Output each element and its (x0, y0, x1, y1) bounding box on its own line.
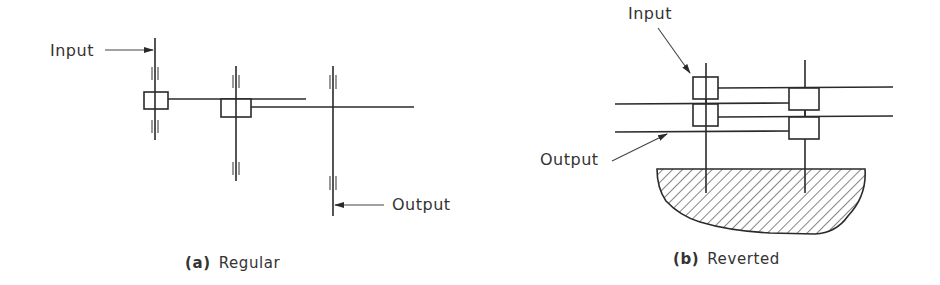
regular-caption-tag: (a) (185, 254, 211, 272)
regular-input-label: Input (50, 41, 94, 60)
reverted-caption-tag: (b) (673, 250, 699, 268)
gear-train-diagram (0, 0, 940, 285)
reverted-output-label: Output (540, 150, 599, 169)
housing (657, 169, 865, 234)
output-line-bottom (615, 131, 789, 132)
regular-gear-train (105, 38, 414, 216)
countershaft-gear-1 (789, 88, 819, 110)
output-arrow-icon (612, 134, 667, 161)
regular-output-label: Output (392, 195, 451, 214)
countershaft-gear-2 (789, 117, 819, 139)
reverted-input-label: Input (628, 4, 672, 23)
reverted-gear-train (612, 28, 893, 234)
reverted-caption-text: Reverted (707, 250, 780, 268)
regular-caption: (a)Regular (185, 254, 280, 272)
input-arrow-icon (658, 28, 690, 73)
reverted-caption: (b)Reverted (673, 250, 780, 268)
regular-caption-text: Regular (219, 254, 281, 272)
input-gear (144, 92, 168, 109)
